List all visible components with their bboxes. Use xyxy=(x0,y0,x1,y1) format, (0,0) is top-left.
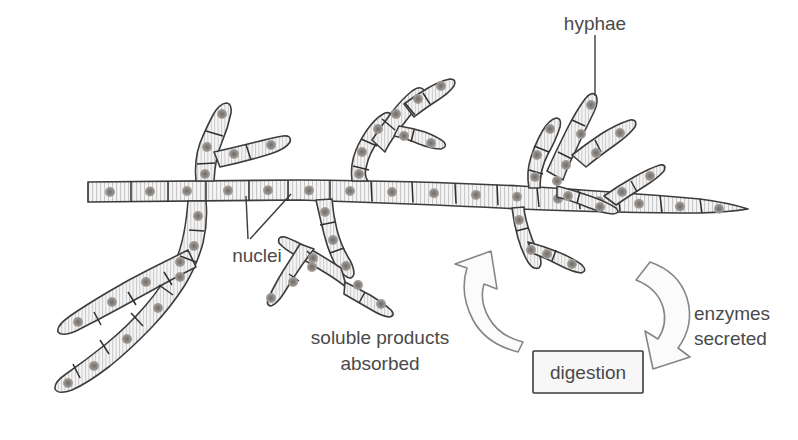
enzymes-label-line1: enzymes xyxy=(694,303,770,324)
digestion-label: digestion xyxy=(550,362,626,383)
soluble-products-label-line2: absorbed xyxy=(340,353,419,374)
soluble-products-label-line1: soluble products xyxy=(311,327,449,348)
enzymes-label-line2: secreted xyxy=(694,328,767,349)
diagram-canvas: digestion hyphae nuclei soluble products… xyxy=(0,0,798,440)
background xyxy=(0,0,798,440)
hyphae-label: hyphae xyxy=(564,13,626,34)
nuclei-label: nuclei xyxy=(232,245,282,266)
